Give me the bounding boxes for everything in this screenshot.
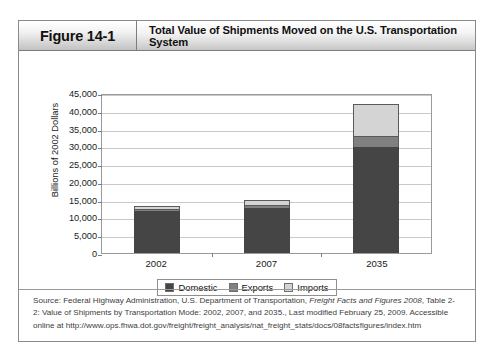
y-tick-label: 0 [49, 249, 97, 259]
figure-title: Total Value of Shipments Moved on the U.… [149, 24, 475, 48]
source-divider [19, 289, 475, 290]
figure-number-label: Figure 14-1 [40, 28, 115, 44]
figure-number-tab: Figure 14-1 [19, 21, 137, 51]
stacked-bar[interactable] [353, 104, 399, 253]
legend-swatch-exports [229, 283, 238, 292]
bar-series-layer [102, 95, 431, 253]
source-publication-title: Freight Facts and Figures 2008 [309, 296, 421, 305]
bar-group-2002 [102, 95, 212, 253]
y-tick-label: 30,000 [49, 142, 97, 152]
stacked-bar[interactable] [244, 200, 290, 253]
chart-legend: DomesticExportsImports [19, 279, 475, 296]
figure-card: Figure 14-1 Total Value of Shipments Mov… [18, 20, 476, 342]
y-tick-label: 5,000 [49, 231, 97, 241]
legend-label: Exports [242, 282, 274, 293]
legend-item-domestic[interactable]: Domestic [165, 282, 217, 293]
legend-swatch-domestic [165, 283, 174, 292]
legend-label: Imports [297, 282, 328, 293]
y-tick-label: 10,000 [49, 213, 97, 223]
y-tick-label: 15,000 [49, 196, 97, 206]
figure-header: Figure 14-1 Total Value of Shipments Mov… [19, 21, 475, 51]
legend-item-exports[interactable]: Exports [229, 282, 274, 293]
bar-segment-domestic[interactable] [134, 211, 180, 253]
stacked-bar[interactable] [134, 206, 180, 253]
y-axis-tick-labels: 45,00040,00035,00030,00025,00020,00015,0… [49, 94, 97, 254]
bar-segment-domestic[interactable] [244, 208, 290, 253]
y-tick-label: 45,000 [49, 89, 97, 99]
x-axis-tick-labels: 200220072035 [101, 258, 432, 269]
bar-segment-imports[interactable] [353, 104, 399, 136]
figure-title-bar: Total Value of Shipments Moved on the U.… [137, 21, 475, 51]
x-tick-mark [212, 253, 213, 257]
y-tick-mark [98, 255, 102, 256]
legend-box: DomesticExportsImports [157, 279, 336, 296]
x-tick-mark [321, 253, 322, 257]
y-tick-label: 20,000 [49, 178, 97, 188]
y-tick-label: 40,000 [49, 107, 97, 117]
y-tick-label: 25,000 [49, 160, 97, 170]
bar-segment-domestic[interactable] [353, 147, 399, 253]
legend-label: Domestic [178, 282, 217, 293]
legend-swatch-imports [284, 283, 293, 292]
x-tick-label-2002: 2002 [101, 258, 211, 269]
bar-group-2007 [212, 95, 322, 253]
chart-region: Billions of 2002 Dollars 45,00040,00035,… [19, 51, 475, 284]
legend-item-imports[interactable]: Imports [284, 282, 328, 293]
x-tick-label-2035: 2035 [322, 258, 432, 269]
y-tick-label: 35,000 [49, 125, 97, 135]
bar-group-2035 [321, 95, 431, 253]
x-tick-label-2007: 2007 [211, 258, 321, 269]
bar-segment-exports[interactable] [353, 136, 399, 147]
source-note: Source: Federal Highway Administration, … [33, 295, 461, 332]
plot-area [101, 94, 432, 254]
